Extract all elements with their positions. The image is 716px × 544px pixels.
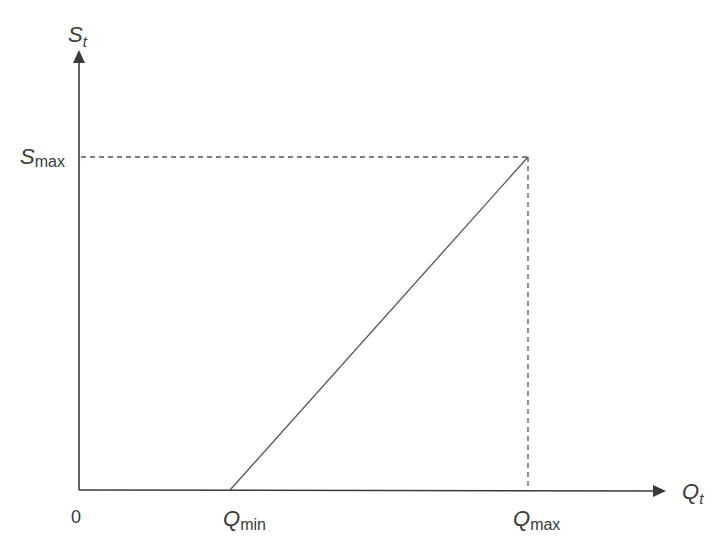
y-axis-arrow-icon xyxy=(73,50,85,63)
x-axis-label: Qt xyxy=(682,479,704,507)
s-max-label: Smax xyxy=(20,144,65,170)
diagram-canvas: St Smax 0 Qmin Qmax Qt xyxy=(0,0,716,544)
x-axis xyxy=(79,490,654,491)
x-axis-arrow-icon xyxy=(653,485,666,497)
y-axis-label: St xyxy=(68,22,88,50)
q-max-label: Qmax xyxy=(513,506,560,533)
q-min-label: Qmin xyxy=(223,506,266,533)
origin-label: 0 xyxy=(71,507,81,527)
relation-line xyxy=(230,157,528,490)
